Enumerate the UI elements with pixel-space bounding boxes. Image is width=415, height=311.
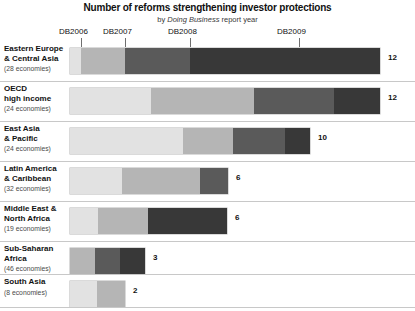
- row-economies-count: (32 economies): [4, 184, 66, 193]
- bar-segment-db2007[interactable]: [95, 248, 120, 274]
- bar-segment-db2006[interactable]: [70, 248, 95, 274]
- row-economies-count: (24 economies): [4, 144, 66, 153]
- chart-row: South Asia(8 economies)2: [0, 275, 415, 308]
- bar-value-label: 10: [318, 133, 327, 142]
- bar-segment-db2008[interactable]: [148, 208, 227, 234]
- row-name-line2: North Africa: [4, 214, 66, 224]
- bar-segment-db2006[interactable]: [70, 128, 183, 154]
- bar-segment-db2006[interactable]: [70, 281, 97, 307]
- stacked-bar[interactable]: [70, 48, 380, 74]
- bar-value-label: 3: [153, 253, 157, 262]
- bar-wrap: [70, 168, 228, 194]
- bar-segment-db2009[interactable]: [334, 88, 380, 114]
- row-name-line1: Sub-Saharan: [4, 244, 66, 254]
- bar-segment-db2008[interactable]: [200, 168, 228, 194]
- axis-label-db2006: DB2006: [59, 27, 88, 36]
- chart-row: Eastern Europe& Central Asia(28 economie…: [0, 42, 415, 82]
- row-name-line2: high income: [4, 94, 66, 104]
- axis-label-db2009: DB2009: [277, 27, 306, 36]
- bar-value-label: 2: [133, 286, 137, 295]
- bar-wrap: [70, 128, 310, 154]
- axis-label-db2007: DB2007: [103, 27, 132, 36]
- bar-value-label: 12: [388, 93, 397, 102]
- row-economies-count: (28 economies): [4, 64, 66, 73]
- row-label: Eastern Europe& Central Asia(28 economie…: [4, 44, 66, 73]
- title-block: Number of reforms strengthening investor…: [0, 2, 415, 25]
- bar-segment-db2009[interactable]: [190, 48, 380, 74]
- row-economies-count: (46 economies): [4, 264, 66, 273]
- row-name-line2: & Caribbean: [4, 174, 66, 184]
- stacked-bar[interactable]: [70, 208, 227, 234]
- bar-segment-db2007[interactable]: [98, 208, 148, 234]
- bar-segment-db2008[interactable]: [125, 48, 190, 74]
- row-economies-count: (8 economies): [4, 288, 66, 297]
- row-label: South Asia(8 economies): [4, 277, 66, 297]
- row-label: East Asia& Pacific(24 economies): [4, 124, 66, 153]
- row-name-line1: East Asia: [4, 124, 66, 134]
- bar-wrap: [70, 48, 380, 74]
- bar-wrap: [70, 88, 380, 114]
- row-economies-count: (19 economies): [4, 224, 66, 233]
- bar-segment-db2006[interactable]: [70, 88, 151, 114]
- row-name-line2: & Central Asia: [4, 54, 66, 64]
- bar-segment-db2007[interactable]: [183, 128, 233, 154]
- subtitle-suffix: report year: [219, 15, 257, 24]
- axis-header: DB2006DB2007DB2008DB2009: [0, 27, 415, 43]
- bar-segment-db2007[interactable]: [97, 281, 125, 307]
- chart-row: Sub-SaharanAfrica(46 economies)3: [0, 242, 415, 275]
- bar-segment-db2009[interactable]: [285, 128, 310, 154]
- row-label: Middle East &North Africa(19 economies): [4, 204, 66, 233]
- bar-segment-db2006[interactable]: [70, 208, 98, 234]
- bar-segment-db2008[interactable]: [120, 248, 145, 274]
- chart-row: OECDhigh income(24 economies)12: [0, 82, 415, 122]
- subtitle-emphasis: Doing Business: [167, 15, 219, 24]
- bar-segment-db2007[interactable]: [151, 88, 254, 114]
- bar-segment-db2006[interactable]: [70, 168, 122, 194]
- axis-label-db2008: DB2008: [168, 27, 197, 36]
- stacked-bar[interactable]: [70, 128, 310, 154]
- stacked-bar[interactable]: [70, 281, 125, 307]
- bar-segment-db2006[interactable]: [70, 48, 81, 74]
- row-separator: [0, 307, 415, 308]
- row-name-line2: Africa: [4, 254, 66, 264]
- row-name-line1: OECD: [4, 84, 66, 94]
- bar-segment-db2007[interactable]: [81, 48, 125, 74]
- chart-subtitle: by Doing Business report year: [0, 15, 415, 25]
- row-label: OECDhigh income(24 economies): [4, 84, 66, 113]
- row-name-line2: & Pacific: [4, 134, 66, 144]
- row-label: Sub-SaharanAfrica(46 economies): [4, 244, 66, 273]
- bar-wrap: [70, 248, 145, 274]
- chart-rows: Eastern Europe& Central Asia(28 economie…: [0, 42, 415, 308]
- bar-segment-db2008[interactable]: [233, 128, 285, 154]
- stacked-bar[interactable]: [70, 88, 380, 114]
- bar-value-label: 6: [235, 213, 239, 222]
- row-name-line1: Eastern Europe: [4, 44, 66, 54]
- row-name-line1: Latin America: [4, 164, 66, 174]
- stacked-bar[interactable]: [70, 248, 145, 274]
- row-label: Latin America& Caribbean(32 economies): [4, 164, 66, 193]
- stacked-bar[interactable]: [70, 168, 228, 194]
- row-name-line1: Middle East &: [4, 204, 66, 214]
- row-name-line1: South Asia: [4, 277, 66, 287]
- bar-value-label: 6: [236, 173, 240, 182]
- row-economies-count: (24 economies): [4, 104, 66, 113]
- chart-row: East Asia& Pacific(24 economies)10: [0, 122, 415, 162]
- chart-title: Number of reforms strengthening investor…: [0, 2, 415, 14]
- chart-container: Number of reforms strengthening investor…: [0, 0, 415, 311]
- bar-value-label: 12: [388, 53, 397, 62]
- bar-segment-db2008[interactable]: [254, 88, 334, 114]
- chart-row: Latin America& Caribbean(32 economies)6: [0, 162, 415, 202]
- chart-row: Middle East &North Africa(19 economies)6: [0, 202, 415, 242]
- bar-segment-db2007[interactable]: [122, 168, 200, 194]
- bar-wrap: [70, 281, 125, 307]
- subtitle-prefix: by: [157, 15, 167, 24]
- bar-wrap: [70, 208, 227, 234]
